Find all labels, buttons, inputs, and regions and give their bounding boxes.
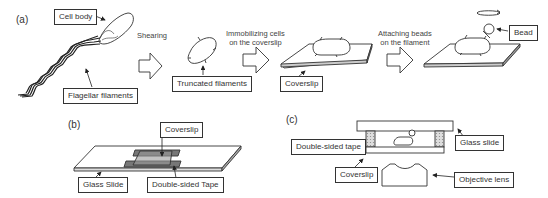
tape-left — [366, 131, 375, 147]
process-arrow-1 — [139, 53, 162, 79]
step-shearing: Shearing — [137, 31, 167, 40]
step-attaching-beads: Attaching beads on the filament — [378, 29, 432, 48]
coverslip-with-cell-illustration — [281, 37, 372, 68]
label-coverslip-b: Coverslip — [160, 122, 203, 138]
coverslip-rect — [366, 147, 444, 153]
step-immobilizing: Immobilizing cells on the coverslip — [226, 29, 285, 48]
label-coverslip-a: Coverslip — [280, 76, 323, 92]
process-arrow-3 — [387, 47, 413, 73]
panel-label-b: (b) — [68, 119, 80, 130]
label-bead: Bead — [509, 25, 538, 41]
label-glass-slide-b: Glass Slide — [78, 177, 128, 193]
panel-label-a: (a) — [16, 14, 28, 25]
label-coverslip-c: Coverslip — [335, 167, 378, 183]
glass-slide-with-coverslip-illustration — [74, 146, 241, 171]
cell-with-flagella-illustration — [18, 13, 133, 97]
label-double-sided-tape-b: Double-sided Tape — [147, 177, 224, 193]
panel-label-c: (c) — [286, 114, 298, 125]
label-double-sided-tape-c: Double-sided tape — [291, 139, 366, 155]
tape-right — [435, 131, 444, 147]
bead-icon — [484, 24, 494, 34]
glass-slide-rect — [357, 121, 453, 131]
coverslip-with-bead-illustration — [424, 10, 520, 67]
process-arrow-2 — [243, 47, 269, 73]
label-glass-slide-c: Glass slide — [455, 135, 504, 151]
label-flagellar-filaments: Flagellar filaments — [63, 88, 138, 104]
label-objective-lens: Objective lens — [454, 172, 514, 188]
label-truncated-filaments: Truncated filaments — [172, 76, 252, 92]
truncated-cell-illustration — [188, 37, 216, 63]
label-cell-body: Cell body — [54, 9, 97, 25]
